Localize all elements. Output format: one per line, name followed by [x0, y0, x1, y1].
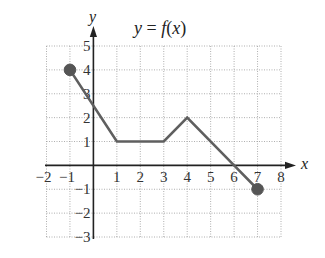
title-lhs: y [132, 18, 142, 38]
x-tick-label: 2 [137, 169, 145, 185]
title-close-paren: ) [180, 18, 186, 39]
y-tick-label: −2 [74, 205, 90, 221]
title-equals: = [142, 18, 161, 38]
function-graph: −2−112345678 54321−1−2−3 x y y = f(x) [0, 0, 325, 258]
y-tick-label: 4 [83, 62, 91, 78]
y-axis-arrow-icon [90, 26, 97, 37]
endpoint-dot [64, 64, 76, 76]
x-tick-label: −2 [36, 169, 52, 185]
x-tick-label: 4 [183, 169, 191, 185]
x-axis-arrow-icon [285, 162, 296, 169]
y-axis-label: y [87, 8, 97, 26]
x-axis-label: x [300, 155, 308, 172]
x-tick-label: 3 [160, 169, 168, 185]
title-arg: x [171, 18, 180, 38]
endpoint-dot [252, 183, 264, 195]
x-tick-label: −1 [59, 169, 75, 185]
y-tick-label: 1 [83, 134, 91, 150]
chart-title: y = f(x) [132, 18, 186, 39]
y-tick-label: 5 [83, 38, 91, 54]
x-tick-label: 6 [230, 169, 238, 185]
y-tick-label: −1 [74, 181, 90, 197]
x-tick-label: 1 [113, 169, 121, 185]
y-tick-label: 2 [83, 110, 91, 126]
x-tick-label: 8 [277, 169, 285, 185]
x-tick-label: 5 [207, 169, 215, 185]
y-tick-label: −3 [74, 229, 90, 245]
